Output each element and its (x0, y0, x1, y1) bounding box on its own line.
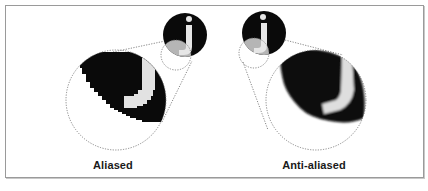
projection-line (162, 61, 192, 122)
projection-line (243, 62, 268, 130)
anti-aliased-label: Anti-aliased (282, 159, 346, 171)
anti-aliased-zoom-view (280, 49, 365, 123)
projection-line (113, 40, 170, 52)
aliasing-diagram (0, 0, 428, 191)
aliased-zoom-view (80, 52, 167, 122)
aliased-label: Aliased (93, 159, 133, 171)
j-glyph-icon (161, 13, 207, 70)
j-glyph-icon (239, 11, 286, 68)
aliased-panel (66, 13, 207, 150)
anti-aliased-panel (239, 11, 366, 150)
